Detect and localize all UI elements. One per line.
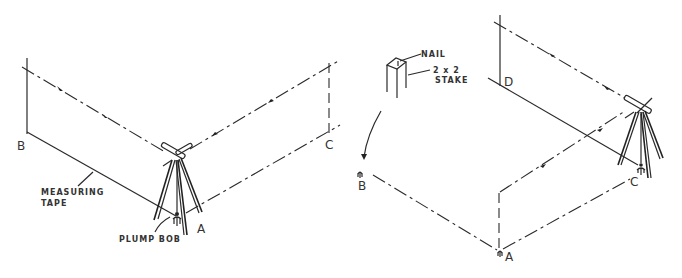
- plumb-bob-label: PLUMP BOB: [119, 235, 181, 244]
- line-a-c: [503, 179, 630, 249]
- measuring-label: MEASURING: [41, 188, 104, 197]
- point-c-label: C: [630, 175, 638, 189]
- arrow-head-icon: [361, 154, 367, 160]
- stake-label: STAKE: [435, 76, 468, 85]
- arrow-icon: [597, 128, 603, 132]
- transit-tripod: [618, 95, 663, 178]
- stake-icon: [387, 58, 406, 98]
- stake-marker-b: [358, 172, 362, 178]
- nail-leader: [400, 54, 421, 61]
- point-b-label: B: [358, 179, 366, 193]
- stake-leader: [408, 70, 430, 75]
- tape-leader: [78, 172, 93, 186]
- line-d-c: [488, 78, 638, 165]
- arrow-icon: [268, 99, 274, 103]
- sight-line-d: [494, 22, 625, 98]
- surveying-diagram: B C A MEASURING TAPE PLUMP BOB NAIL 2 x …: [0, 0, 682, 278]
- line-b-a: [373, 175, 497, 250]
- right-figure: NAIL 2 x 2 STAKE: [358, 15, 663, 264]
- point-d-label: D: [504, 75, 513, 89]
- point-a-label: A: [505, 250, 514, 264]
- transit-tripod: [154, 142, 202, 235]
- nail-label: NAIL: [421, 50, 446, 59]
- point-c-label: C: [325, 138, 333, 152]
- arrow-icon: [57, 86, 63, 91]
- sight-line-a: [500, 111, 625, 192]
- sight-line-b: [22, 67, 165, 152]
- point-b-label: B: [17, 139, 25, 153]
- point-a-label: A: [197, 222, 206, 236]
- curved-arrow: [364, 111, 381, 157]
- stake-size-label: 2 x 2: [433, 66, 460, 75]
- plumb-bob-leader: [155, 217, 170, 232]
- left-figure: B C A MEASURING TAPE PLUMP BOB: [17, 58, 340, 244]
- baseline-a-c: [186, 125, 340, 213]
- stake-marker-a: [498, 251, 502, 257]
- tape-label: TAPE: [41, 199, 67, 208]
